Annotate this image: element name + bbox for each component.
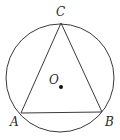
label-b: B — [104, 115, 114, 129]
label-a: A — [9, 115, 19, 129]
figure-svg: C A B O — [0, 0, 120, 140]
label-o: O — [49, 73, 59, 87]
label-c: C — [56, 5, 65, 19]
circumcircle — [6, 24, 114, 132]
center-point-o — [59, 85, 63, 89]
geometry-figure: C A B O — [0, 0, 120, 140]
triangle-abc — [21, 23, 102, 113]
